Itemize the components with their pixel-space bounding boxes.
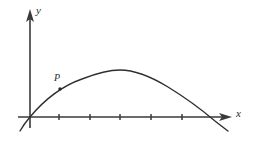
y-axis-label: y xyxy=(36,5,41,16)
y-axis-group xyxy=(26,9,34,128)
figure-container: y x P xyxy=(0,0,259,141)
x-axis-group xyxy=(18,113,232,121)
coordinate-diagram-svg xyxy=(0,0,259,141)
x-axis-label: x xyxy=(236,108,241,119)
parabola-curve xyxy=(20,70,228,131)
point-label-p: P xyxy=(54,73,60,83)
point-marker-p xyxy=(58,87,61,90)
